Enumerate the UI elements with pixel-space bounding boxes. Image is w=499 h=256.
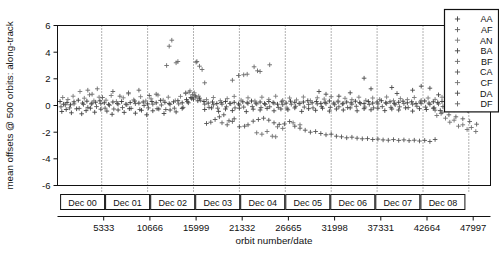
data-point	[181, 105, 186, 110]
y-tick-label: 6	[45, 20, 50, 31]
data-point	[447, 113, 452, 118]
legend-label-da[interactable]: DA	[480, 89, 493, 99]
data-point	[87, 93, 92, 98]
data-point	[275, 102, 280, 107]
data-point	[225, 123, 230, 128]
data-point	[324, 133, 329, 138]
data-point	[358, 101, 363, 106]
data-point	[340, 102, 345, 107]
data-point	[311, 106, 316, 111]
data-point	[125, 102, 130, 107]
legend-label-af[interactable]: AF	[481, 25, 493, 35]
data-point	[120, 105, 125, 110]
legend[interactable]: AAAFANBABFCACFDADF	[445, 10, 499, 112]
data-point	[202, 81, 207, 86]
data-point	[202, 107, 207, 112]
data-point	[313, 108, 318, 113]
data-point	[159, 103, 164, 108]
data-point	[109, 93, 114, 98]
data-point	[428, 139, 433, 144]
legend-label-bf[interactable]: BF	[481, 57, 493, 67]
data-point	[461, 123, 466, 128]
data-point	[334, 134, 339, 139]
data-point	[164, 63, 169, 68]
data-point	[415, 104, 420, 109]
data-point	[69, 111, 74, 116]
legend-label-ba[interactable]: BA	[480, 46, 492, 56]
y-axis-title: mean offsets @ 500 orbits: along-track	[4, 21, 15, 189]
data-point	[397, 105, 402, 110]
data-point	[433, 137, 438, 142]
data-point	[381, 138, 386, 143]
data-point	[92, 110, 97, 115]
data-point	[60, 109, 65, 114]
data-point	[106, 102, 111, 107]
legend-label-aa[interactable]: AA	[480, 14, 492, 24]
data-point	[168, 102, 173, 107]
data-point	[246, 101, 251, 106]
data-point	[124, 102, 129, 107]
data-point	[262, 101, 267, 106]
data-point	[440, 99, 445, 104]
data-point	[170, 38, 175, 43]
data-point	[315, 102, 320, 107]
legend-label-cf[interactable]: CF	[481, 78, 493, 88]
series-CF	[254, 111, 478, 139]
data-point	[232, 94, 237, 99]
data-point	[370, 137, 375, 142]
x-axis-title: orbit number/date	[236, 235, 313, 246]
data-point	[86, 88, 91, 93]
data-point	[85, 99, 90, 104]
data-point	[365, 136, 370, 141]
data-point	[162, 111, 167, 116]
data-point	[337, 94, 342, 99]
data-point	[138, 94, 143, 99]
data-point	[417, 139, 422, 144]
data-point	[111, 100, 116, 105]
legend-label-an[interactable]: AN	[480, 36, 493, 46]
data-point	[270, 134, 275, 139]
y-tick-label: 0	[45, 100, 50, 111]
data-point	[383, 101, 388, 106]
data-point	[195, 59, 200, 64]
data-point	[180, 106, 185, 111]
data-point	[245, 72, 250, 77]
data-point	[72, 102, 77, 107]
data-point	[348, 91, 353, 96]
data-point	[60, 95, 65, 100]
data-point	[246, 96, 251, 101]
data-point	[369, 87, 374, 92]
data-point	[151, 109, 156, 114]
data-point	[178, 94, 183, 99]
y-axis: -6-4-20246	[42, 20, 57, 191]
y-tick-label: -4	[42, 153, 50, 164]
data-point	[350, 135, 355, 140]
data-point	[328, 105, 333, 110]
data-point	[419, 84, 424, 89]
date-box-label: Dec 08	[429, 198, 458, 208]
data-point	[167, 44, 172, 49]
data-point	[337, 105, 342, 110]
data-point	[241, 73, 246, 78]
legend-label-ca[interactable]: CA	[480, 67, 493, 77]
data-point	[78, 89, 83, 94]
x-tick-label: 10666	[137, 222, 163, 233]
data-point	[244, 109, 249, 114]
data-point	[422, 99, 427, 104]
data-point	[334, 107, 339, 112]
data-point	[301, 95, 306, 100]
data-point	[132, 99, 137, 104]
data-point	[223, 107, 228, 112]
date-box-label: Dec 07	[384, 198, 413, 208]
data-point	[200, 67, 205, 72]
data-point	[280, 126, 285, 131]
legend-label-df[interactable]: DF	[481, 99, 493, 109]
data-point	[236, 102, 241, 107]
data-point	[194, 60, 199, 65]
data-point	[327, 99, 332, 104]
data-point	[141, 100, 146, 105]
scatter-plot: -6-4-20246mean offsets @ 500 orbits: alo…	[0, 0, 499, 256]
data-point	[137, 88, 142, 93]
x-tick-label: 47997	[460, 222, 486, 233]
data-point	[435, 113, 440, 118]
